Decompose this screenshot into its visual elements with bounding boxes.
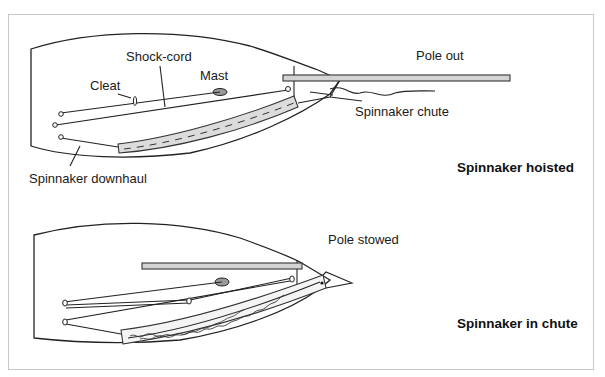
panel-spinnaker-in-chute: Pole stowed Spinnaker in chute xyxy=(34,223,578,344)
spinnaker-pole xyxy=(283,75,510,81)
panel-title-hoisted: Spinnaker hoisted xyxy=(457,160,574,175)
pulley-icon xyxy=(59,135,64,140)
panel-spinnaker-hoisted: Shock-cord Mast Cleat Pole out Spinnaker… xyxy=(29,34,574,186)
panel-title-in-chute: Spinnaker in chute xyxy=(457,316,578,331)
label-spinnaker-chute: Spinnaker chute xyxy=(355,104,449,119)
pulley-icon xyxy=(286,87,291,92)
spinnaker-sheet xyxy=(330,88,435,95)
pulley-icon xyxy=(63,319,68,325)
pulley-icon xyxy=(290,276,295,282)
label-pole-out: Pole out xyxy=(416,48,464,63)
label-pole-stowed: Pole stowed xyxy=(328,232,399,247)
pulley-icon xyxy=(53,123,58,128)
label-mast: Mast xyxy=(200,68,229,83)
label-cleat: Cleat xyxy=(90,78,121,93)
chute-leader xyxy=(330,97,362,101)
spinnaker-head xyxy=(320,281,323,284)
pulley-icon xyxy=(63,300,68,306)
spinnaker-pole xyxy=(142,263,302,269)
spinnaker-diagram: Shock-cord Mast Cleat Pole out Spinnaker… xyxy=(0,0,605,377)
cleat-icon xyxy=(133,97,136,106)
pulley-icon xyxy=(187,298,192,304)
label-spinnaker-downhaul: Spinnaker downhaul xyxy=(29,171,147,186)
pulley-icon xyxy=(59,112,64,117)
label-shock-cord: Shock-cord xyxy=(126,49,192,64)
